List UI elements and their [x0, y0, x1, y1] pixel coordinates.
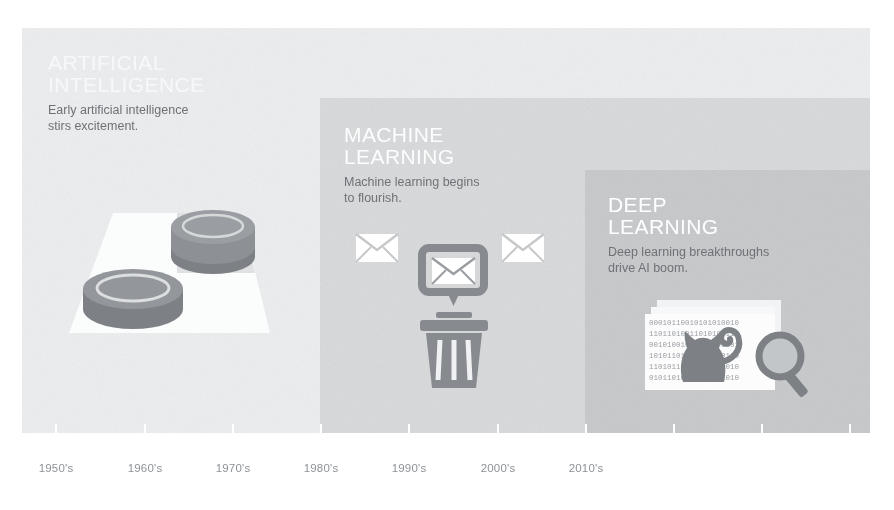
trash-can-icon: [420, 312, 488, 388]
envelope-framed-icon: [422, 248, 484, 306]
heading-machine-learning: MACHINE LEARNING: [344, 124, 480, 168]
heading-artificial-intelligence: ARTIFICIAL INTELLIGENCE: [48, 52, 205, 96]
caption-artificial-intelligence: Early artificial intelligence stirs exci…: [48, 102, 205, 135]
label-machine-learning: MACHINE LEARNING Machine learning begins…: [344, 124, 480, 207]
axis-tick-label: 2010's: [551, 462, 621, 474]
heading-deep-learning: DEEP LEARNING: [608, 194, 769, 238]
spam-filter-illustration: [352, 228, 548, 393]
axis-tick-label: 2000's: [463, 462, 533, 474]
envelope-right-icon: [502, 234, 544, 262]
axis-tick-label: 1970's: [198, 462, 268, 474]
svg-text:00010110010101010010: 00010110010101010010: [649, 319, 740, 327]
axis-tick-label: 1980's: [286, 462, 356, 474]
envelope-left-icon: [356, 234, 398, 262]
timeline-figure: 00010110010101010010 1101101001101010011…: [0, 0, 894, 510]
deep-learning-illustration: 00010110010101010010 1101101001101010011…: [645, 298, 825, 403]
caption-deep-learning: Deep learning breakthroughs drive AI boo…: [608, 244, 769, 277]
axis-tick-label: 1950's: [21, 462, 91, 474]
checker-stack: [171, 210, 255, 274]
checker-single: [83, 269, 183, 329]
label-artificial-intelligence: ARTIFICIAL INTELLIGENCE Early artificial…: [48, 52, 205, 135]
axis-tick-label: 1960's: [110, 462, 180, 474]
caption-machine-learning: Machine learning begins to flourish.: [344, 174, 480, 207]
label-deep-learning: DEEP LEARNING Deep learning breakthrough…: [608, 194, 769, 277]
axis-tick-label: 1990's: [374, 462, 444, 474]
checkerboard-illustration: [55, 185, 270, 345]
